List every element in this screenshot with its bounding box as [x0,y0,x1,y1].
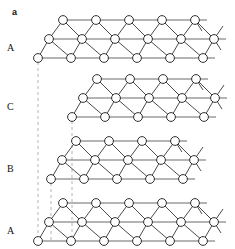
atom-node [191,199,200,208]
atom-node [179,175,188,184]
atom-node [45,218,54,227]
atom-node [134,113,143,122]
layer-label-c: C [7,102,14,112]
atom-node [177,35,186,44]
alignment-guides [38,62,72,243]
layer-label-b: B [7,164,14,174]
atom-node [125,16,134,25]
atom-node [112,94,121,103]
atom-node [68,113,77,122]
atom-node [166,54,175,63]
atom-node [192,75,201,84]
atom-node [47,175,56,184]
atom-node [133,237,142,246]
atom-node [45,35,54,44]
lattice-layers [34,16,227,246]
layer-label-a-bottom: A [7,226,14,236]
atom-node [125,199,134,208]
atom-node [72,137,81,146]
atom-node [111,218,120,227]
atom-node [158,199,167,208]
atom-node [199,54,208,63]
atom-node [138,137,147,146]
atom-node [157,156,166,165]
atom-node [67,237,76,246]
atom-node [101,113,110,122]
atom-node [59,16,68,25]
atom-node [146,175,155,184]
atom-node [59,199,68,208]
atom-node [100,54,109,63]
atom-node [105,137,114,146]
atom-node [199,237,208,246]
atom-node [100,237,109,246]
atom-node [79,94,88,103]
atom-node [34,237,43,246]
atom-node [171,137,180,146]
atom-node [159,75,168,84]
lattice-layer-layer-a-bottom [34,199,226,246]
lattice-layer-layer-c [68,75,227,122]
atom-node [92,199,101,208]
atom-node [126,75,135,84]
atom-node [158,16,167,25]
atom-node [111,35,120,44]
atom-node [133,54,142,63]
atom-node [67,54,76,63]
atom-node [144,218,153,227]
atom-node [144,35,153,44]
atom-node [177,218,186,227]
atom-node [211,94,220,103]
atom-node [34,54,43,63]
lattice-diagram [0,0,235,249]
atom-node [145,94,154,103]
row-lines-layer-a-bottom [38,203,226,241]
atom-node [190,156,199,165]
panel-label-a: a [12,8,17,17]
lattice-layer-layer-a-top [34,16,226,63]
atom-node [113,175,122,184]
atom-node [91,156,100,165]
atom-node [167,113,176,122]
atom-node [78,218,87,227]
atom-node [124,156,133,165]
atom-node [210,35,219,44]
lattice-layer-layer-b [47,137,206,184]
layer-label-a-top: A [7,43,14,53]
atom-node [191,16,200,25]
stacking-sequence-figure: a A C B A [0,0,235,249]
atom-node [166,237,175,246]
atom-node [92,16,101,25]
atom-node [58,156,67,165]
row-lines-layer-a-top [38,20,226,58]
atom-node [80,175,89,184]
atom-node [210,218,219,227]
atom-node [200,113,209,122]
atom-node [178,94,187,103]
atom-node [78,35,87,44]
atom-node [93,75,102,84]
